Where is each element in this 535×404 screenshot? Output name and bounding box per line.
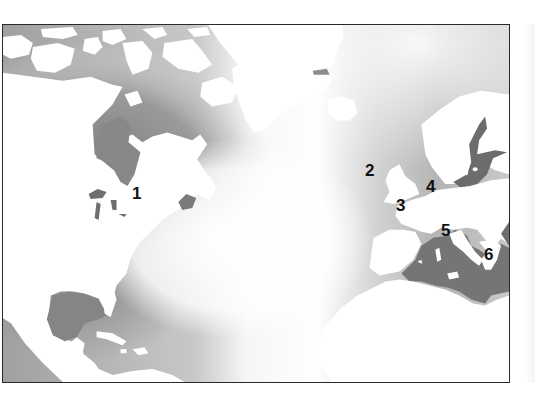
map-label-5: 5 [441,222,450,239]
map-frame: 1 2 3 4 5 6 [2,24,510,383]
map-label-4: 4 [426,178,435,195]
map-label-6: 6 [484,246,493,263]
page-edge [525,24,535,383]
map-label-1: 1 [132,185,141,202]
map-label-3: 3 [396,197,405,214]
north-atlantic-map [3,25,509,382]
map-label-2: 2 [365,162,374,179]
